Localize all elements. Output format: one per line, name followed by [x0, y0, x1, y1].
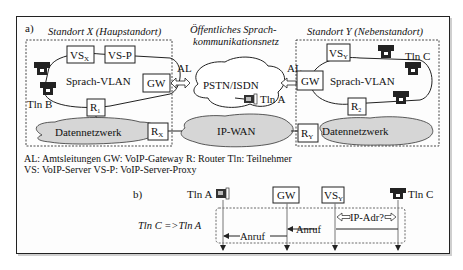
part-a-label: a)	[25, 22, 34, 35]
phone-icon	[378, 45, 394, 58]
network-diagram: a) Standort X (Haupstandort) Standort Y …	[0, 0, 463, 270]
isdn-phone-icon	[244, 94, 257, 104]
seq-participant-gw: GW	[277, 189, 296, 201]
part-b-label: b)	[133, 188, 143, 201]
seq-scenario-label: Tln C =>Tln A	[138, 220, 202, 231]
site-x-title: Standort X (Haupstandort)	[48, 26, 162, 38]
phone-icon	[405, 62, 421, 75]
legend-line-1: AL: Amtsleitungen GW: VoIP-Gateway R: Ro…	[24, 153, 293, 164]
public-network-title-1: Öffentliches Sprach-	[190, 24, 277, 35]
site-y-subscriber-label: Tln C	[405, 50, 430, 62]
msg-call-1: Anruf	[296, 224, 322, 235]
site-x-vlan-label: Sprach-VLAN	[66, 75, 131, 87]
pstn-label: PSTN/ISDN	[203, 79, 259, 91]
site-x-data-network-label: Datennetzwerk	[55, 126, 122, 138]
site-y-vlan-label: Sprach-VLAN	[330, 75, 395, 87]
site-y-data-network-label: Datennetzwerk	[322, 125, 389, 137]
trunk-left-arrow	[171, 78, 190, 88]
site-x-vsp-label: VS-P	[108, 49, 132, 61]
phone-icon	[40, 82, 56, 95]
public-network-title-2: kommunikationsnetz	[193, 36, 279, 47]
msg-call-2: Anruf	[240, 231, 266, 242]
legend-line-2: VS: VoIP-Server VS-P: VoIP-Server-Proxy	[24, 164, 197, 175]
ip-query-arrow-right	[385, 213, 396, 221]
phone-icon	[393, 91, 409, 104]
seq-participant-tln-c: Tln C	[408, 188, 433, 200]
ip-wan-label: IP-WAN	[217, 125, 256, 137]
ip-query-arrow-left	[337, 213, 350, 221]
tln-a-label: Tln A	[260, 93, 285, 105]
site-x-gw-label: GW	[147, 77, 166, 89]
site-y-title: Standort Y (Nebenstandort)	[307, 26, 424, 38]
isdn-phone-icon	[216, 188, 229, 199]
seq-participant-tln-a: Tln A	[187, 188, 212, 200]
trunk-left-label: AL	[177, 62, 192, 74]
site-x-subscriber-label: Tln B	[27, 98, 52, 110]
phone-icon	[390, 188, 406, 199]
site-y-gw-label: GW	[301, 75, 320, 87]
msg-ip-query: IP-Adr?	[350, 212, 384, 223]
